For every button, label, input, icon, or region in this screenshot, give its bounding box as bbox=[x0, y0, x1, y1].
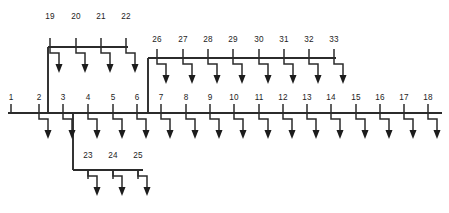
load-arrowhead-5 bbox=[119, 130, 126, 139]
load-7 bbox=[161, 113, 174, 139]
node-label-22: 22 bbox=[121, 12, 131, 21]
node-label-12: 12 bbox=[278, 93, 288, 102]
load-arrowhead-29 bbox=[239, 75, 246, 84]
load-arrowhead-9 bbox=[216, 130, 223, 139]
node-2[interactable] bbox=[39, 104, 52, 139]
load-stem-11 bbox=[259, 113, 268, 130]
node-label-30: 30 bbox=[254, 35, 264, 44]
load-stem-23 bbox=[88, 170, 97, 187]
node-9[interactable] bbox=[210, 104, 223, 139]
load-10 bbox=[234, 113, 247, 139]
load-4 bbox=[88, 113, 101, 139]
load-33 bbox=[334, 58, 347, 84]
load-stem-2 bbox=[39, 113, 48, 130]
load-stem-16 bbox=[380, 113, 389, 130]
node-12[interactable] bbox=[283, 104, 296, 139]
load-12 bbox=[283, 113, 296, 139]
node-label-26: 26 bbox=[152, 35, 162, 44]
node-20[interactable] bbox=[76, 38, 89, 73]
load-arrowhead-24 bbox=[119, 187, 126, 196]
load-8 bbox=[186, 113, 199, 139]
riser-from-node-2-to-upper-left-branch bbox=[39, 47, 48, 113]
load-stem-29 bbox=[233, 58, 242, 75]
node-label-10: 10 bbox=[229, 93, 239, 102]
node-32[interactable] bbox=[309, 49, 322, 84]
node-19[interactable] bbox=[50, 38, 63, 73]
node-label-27: 27 bbox=[178, 35, 188, 44]
node-label-11: 11 bbox=[255, 93, 264, 102]
node-label-25: 25 bbox=[133, 151, 143, 160]
riser-from-node-6-to-upper-right-branch bbox=[137, 58, 148, 113]
node-26[interactable] bbox=[157, 49, 170, 84]
load-arrowhead-13 bbox=[313, 130, 320, 139]
node-27[interactable] bbox=[183, 49, 196, 84]
load-arrowhead-6 bbox=[143, 130, 150, 139]
load-arrowhead-21 bbox=[107, 64, 114, 73]
load-arrowhead-22 bbox=[132, 64, 139, 73]
node-11[interactable] bbox=[259, 104, 272, 139]
load-arrowhead-7 bbox=[167, 130, 174, 139]
load-9 bbox=[210, 113, 223, 139]
node-33[interactable] bbox=[334, 49, 347, 84]
node-23[interactable] bbox=[88, 170, 101, 196]
load-stem-18 bbox=[428, 113, 437, 130]
load-stem-19 bbox=[50, 47, 59, 64]
node-25[interactable] bbox=[138, 170, 151, 196]
node-label-23: 23 bbox=[83, 151, 93, 160]
node-10[interactable] bbox=[234, 104, 247, 139]
node-18[interactable] bbox=[428, 104, 441, 139]
node-31[interactable] bbox=[284, 49, 297, 84]
load-32 bbox=[309, 58, 322, 84]
load-28 bbox=[208, 58, 221, 84]
node-14[interactable] bbox=[331, 104, 344, 139]
load-stem-12 bbox=[283, 113, 292, 130]
node-30[interactable] bbox=[259, 49, 272, 84]
load-arrowhead-23 bbox=[94, 187, 101, 196]
node-17[interactable] bbox=[404, 104, 417, 139]
node-label-1: 1 bbox=[9, 93, 14, 102]
node-13[interactable] bbox=[307, 104, 320, 139]
load-stem-7 bbox=[161, 113, 170, 130]
node-label-21: 21 bbox=[96, 12, 106, 21]
load-11 bbox=[259, 113, 272, 139]
load-arrowhead-33 bbox=[340, 75, 347, 84]
load-6 bbox=[137, 113, 150, 139]
load-stem-30 bbox=[259, 58, 268, 75]
node-21[interactable] bbox=[101, 38, 114, 73]
node-29[interactable] bbox=[233, 49, 246, 84]
node-label-28: 28 bbox=[203, 35, 213, 44]
load-17 bbox=[404, 113, 417, 139]
load-stem-32 bbox=[309, 58, 318, 75]
node-7[interactable] bbox=[161, 104, 174, 139]
node-28[interactable] bbox=[208, 49, 221, 84]
branch-layer bbox=[39, 38, 347, 196]
load-arrowhead-20 bbox=[82, 64, 89, 73]
load-stem-5 bbox=[113, 113, 122, 130]
node-16[interactable] bbox=[380, 104, 393, 139]
node-15[interactable] bbox=[356, 104, 369, 139]
node-24[interactable] bbox=[113, 170, 126, 196]
load-5 bbox=[113, 113, 126, 139]
load-arrowhead-12 bbox=[289, 130, 296, 139]
load-stem-27 bbox=[183, 58, 192, 75]
node-label-16: 16 bbox=[375, 93, 385, 102]
load-arrowhead-11 bbox=[265, 130, 272, 139]
load-arrowhead-30 bbox=[265, 75, 272, 84]
load-stem-8 bbox=[186, 113, 195, 130]
load-15 bbox=[356, 113, 369, 139]
load-29 bbox=[233, 58, 246, 84]
node-label-33: 33 bbox=[329, 35, 339, 44]
node-22[interactable] bbox=[126, 38, 139, 73]
load-arrowhead-26 bbox=[163, 75, 170, 84]
load-arrowhead-32 bbox=[315, 75, 322, 84]
node-label-15: 15 bbox=[351, 93, 361, 102]
node-8[interactable] bbox=[186, 104, 199, 139]
load-21 bbox=[101, 47, 114, 73]
node-label-18: 18 bbox=[423, 93, 433, 102]
node-5[interactable] bbox=[113, 104, 126, 139]
load-stem-6 bbox=[137, 113, 146, 130]
node-4[interactable] bbox=[88, 104, 101, 139]
load-arrowhead-15 bbox=[362, 130, 369, 139]
load-arrowhead-10 bbox=[240, 130, 247, 139]
load-stem-4 bbox=[88, 113, 97, 130]
